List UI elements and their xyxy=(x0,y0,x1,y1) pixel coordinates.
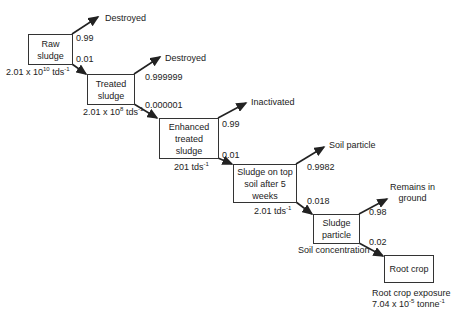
prob-particle-down: 0.02 xyxy=(369,237,387,248)
outcome-soil-particle: Soil particle xyxy=(329,140,376,151)
node-root-crop: Root crop xyxy=(384,255,434,283)
node-sludge-on-top-soil: Sludge on topsoil after 5weeks xyxy=(233,164,297,203)
prob-raw-down: 0.01 xyxy=(76,54,94,65)
outcome-inactivated: Inactivated xyxy=(251,97,295,108)
raw-sludge-quantity: 2.01 x 1010 tds-1 xyxy=(6,67,70,78)
enhanced-sludge-quantity: 201 tds-1 xyxy=(174,162,209,173)
soil-concentration-label: Soil concentration xyxy=(298,245,370,256)
prob-topsoil-up: 0.9982 xyxy=(307,162,335,173)
prob-raw-up: 0.99 xyxy=(76,33,94,44)
prob-particle-up: 0.98 xyxy=(369,207,387,218)
prob-enhanced-down: 0.01 xyxy=(222,150,240,161)
root-crop-exposure: Root crop exposure 7.04 x 10-5 tonne-1 xyxy=(372,288,451,310)
prob-treated-up: 0.999999 xyxy=(145,72,183,83)
prob-treated-down: 0.000001 xyxy=(145,100,183,111)
node-enhanced-treated-sludge: Enhancedtreatedsludge xyxy=(159,118,219,159)
outcome-remains-in-ground: Remains in ground xyxy=(390,182,435,204)
node-sludge-particle: Sludgeparticle xyxy=(313,214,360,244)
prob-topsoil-down: 0.018 xyxy=(307,196,330,207)
topsoil-quantity: 2.01 tds-1 xyxy=(254,206,291,217)
node-raw-sludge: Rawsludge xyxy=(28,34,73,65)
outcome-destroyed-1: Destroyed xyxy=(105,13,146,24)
node-treated-sludge: Treatedsludge xyxy=(87,74,135,105)
treated-sludge-quantity: 2.01 x 108 tds-1 xyxy=(83,107,143,118)
outcome-destroyed-2: Destroyed xyxy=(165,53,206,64)
prob-enhanced-up: 0.99 xyxy=(222,119,240,130)
